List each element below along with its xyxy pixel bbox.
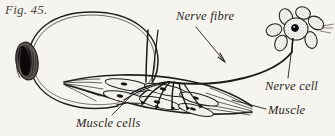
label-muscle-cells: Muscle cells [76,117,141,130]
label-nerve-fibre: Nerve fibre [176,10,234,23]
figure-number: Fig. 45. [5,3,47,16]
label-nerve-cell: Nerve cell [265,80,318,93]
label-muscle: Muscle [268,104,305,117]
figure-45-diagram: Fig. 45. Nerve fibre Nerve cell Muscle M… [0,0,335,136]
nerve-cell-nucleus [292,25,299,32]
nucleolus-highlight [293,26,295,28]
